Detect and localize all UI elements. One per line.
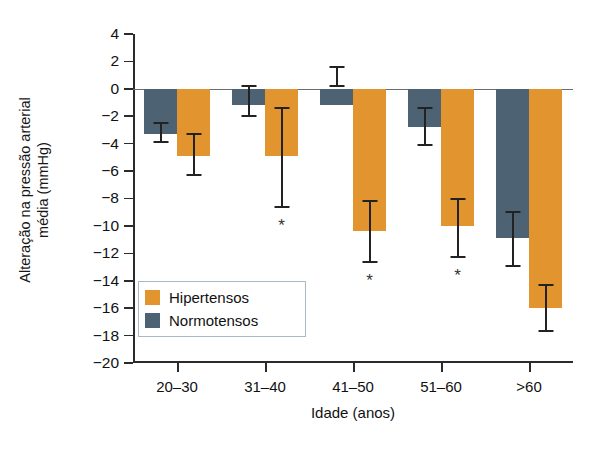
legend-item-normotensos: Normotensos: [145, 309, 299, 332]
legend-label-normotensos: Normotensos: [169, 312, 258, 329]
error-bar-cap: [274, 206, 289, 208]
y-tick-label: −2: [101, 107, 119, 125]
error-bar: [281, 108, 283, 207]
x-tick: [353, 363, 355, 372]
y-axis-title-line-2: média (mmHg): [34, 97, 52, 282]
error-bar: [336, 67, 338, 86]
x-tick: [177, 363, 179, 372]
x-axis-title: Idade (anos): [133, 404, 573, 421]
legend-swatch-hipertensos: [145, 290, 160, 305]
error-bar-cap: [417, 144, 432, 146]
error-bar-cap: [329, 66, 344, 68]
x-tick-label: 41–50: [332, 378, 374, 395]
x-tick: [529, 363, 531, 372]
y-tick: 0: [124, 88, 133, 90]
error-bar-cap: [450, 256, 465, 258]
y-axis-title-line-1: Alteração na pressão arterial: [17, 97, 33, 282]
error-bar-cap: [241, 85, 256, 87]
y-tick: −6: [124, 170, 133, 172]
y-tick-label: −14: [93, 272, 119, 290]
y-tick: 2: [124, 61, 133, 63]
y-tick-label: −12: [93, 244, 119, 262]
y-tick: −2: [124, 115, 133, 117]
chart-legend: Hipertensos Normotensos: [138, 281, 306, 337]
y-tick-label: −10: [93, 217, 119, 235]
x-tick-label: 20–30: [156, 378, 198, 395]
error-bar-cap: [538, 330, 553, 332]
y-axis-title: Alteração na pressão arterial média (mmH…: [6, 0, 62, 380]
bar-hyper: [529, 89, 562, 308]
error-bar-cap: [450, 198, 465, 200]
bar-normo: [320, 89, 353, 105]
error-bar: [512, 212, 514, 265]
y-tick-label: 0: [110, 80, 119, 98]
error-bar: [193, 134, 195, 175]
x-tick: [265, 363, 267, 372]
x-tick: [441, 363, 443, 372]
y-tick: −8: [124, 198, 133, 200]
y-tick-label: −18: [93, 327, 119, 345]
x-tick-label: >60: [516, 378, 541, 395]
error-bar-cap: [362, 200, 377, 202]
y-tick-label: −6: [101, 162, 119, 180]
bar-chart-figure: Alteração na pressão arterial média (mmH…: [0, 0, 593, 452]
y-tick: −12: [124, 253, 133, 255]
error-bar: [248, 86, 250, 116]
x-tick-label: 31–40: [244, 378, 286, 395]
error-bar-cap: [505, 211, 520, 213]
legend-item-hipertensos: Hipertensos: [145, 286, 299, 309]
y-tick: −16: [124, 307, 133, 309]
error-bar-cap: [186, 174, 201, 176]
y-axis-line: [133, 34, 135, 363]
y-tick: −14: [124, 280, 133, 282]
x-tick-label: 51–60: [420, 378, 462, 395]
y-tick-label: −16: [93, 299, 119, 317]
significance-asterisk: *: [366, 276, 373, 286]
error-bar: [369, 201, 371, 261]
y-tick: −20: [124, 362, 133, 364]
significance-asterisk: *: [454, 271, 461, 281]
y-tick: −18: [124, 335, 133, 337]
y-tick-label: −8: [101, 189, 119, 207]
error-bar-cap: [505, 265, 520, 267]
y-tick: −10: [124, 225, 133, 227]
y-tick-label: 4: [110, 25, 119, 43]
error-bar-cap: [153, 122, 168, 124]
error-bar-cap: [274, 107, 289, 109]
error-bar-cap: [417, 107, 432, 109]
y-tick-label: −4: [101, 135, 119, 153]
error-bar: [160, 123, 162, 142]
error-bar: [424, 108, 426, 145]
y-tick-label: −20: [93, 354, 119, 372]
error-bar-cap: [153, 141, 168, 143]
error-bar-cap: [538, 284, 553, 286]
error-bar-cap: [362, 261, 377, 263]
y-tick-label: 2: [110, 52, 119, 70]
error-bar: [545, 285, 547, 332]
error-bar-cap: [241, 115, 256, 117]
y-tick: −4: [124, 143, 133, 145]
error-bar: [457, 199, 459, 258]
error-bar-cap: [329, 85, 344, 87]
y-tick: 4: [124, 33, 133, 35]
legend-label-hipertensos: Hipertensos: [169, 289, 249, 306]
legend-swatch-normotensos: [145, 313, 160, 328]
significance-asterisk: *: [278, 221, 285, 231]
error-bar-cap: [186, 133, 201, 135]
